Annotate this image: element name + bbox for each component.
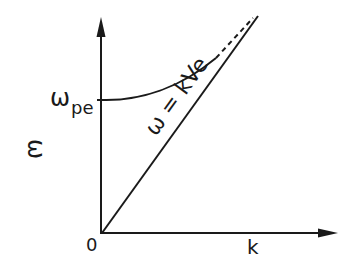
origin-label: 0 [86, 236, 97, 254]
dispersion-diagram [0, 0, 352, 272]
x-axis [101, 229, 338, 238]
y-axis-arrowhead-icon [97, 17, 106, 37]
y-axis-label: ω [24, 139, 48, 159]
omega-pe-label: ωpe [50, 86, 93, 110]
light-line [102, 16, 258, 233]
dispersion-curve-dashed [216, 18, 253, 58]
y-axis [97, 17, 106, 234]
x-axis-label: k [247, 237, 259, 257]
x-axis-arrowhead-icon [318, 229, 338, 238]
